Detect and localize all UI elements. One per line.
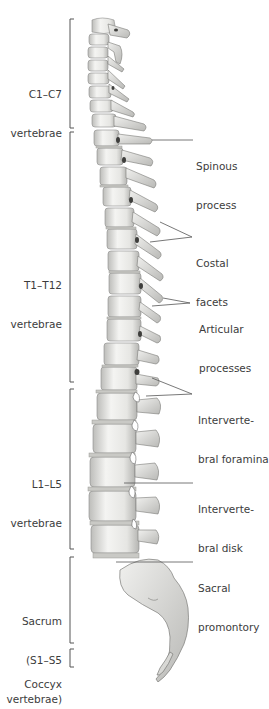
- label-lumbar-line2: vertebrae: [4, 517, 62, 530]
- annotation-sacral-promontory: Sacral promontory: [198, 556, 260, 660]
- annotation-articular-processes-line2: processes: [199, 362, 251, 375]
- label-thoracic-line2: vertebrae: [4, 318, 62, 331]
- label-coccyx: Coccyx: [4, 652, 62, 709]
- annotation-sacral-promontory-line1: Sacral: [198, 582, 260, 595]
- annotation-costal-facets-line1: Costal: [196, 257, 229, 270]
- label-thoracic: T1–T12 vertebrae: [4, 253, 62, 357]
- bracket-cervical: [70, 19, 74, 128]
- annotation-articular-processes: Articular processes: [199, 297, 251, 401]
- label-cervical: C1–C7 vertebrae: [4, 62, 62, 166]
- bracket-sacrum: [70, 557, 74, 643]
- label-lumbar-line1: L1–L5: [4, 478, 62, 491]
- bracket-coccyx: [70, 649, 74, 667]
- bracket-lumbar: [70, 389, 74, 549]
- annotation-intervertebral-foramina-line1: Interverte-: [198, 414, 269, 427]
- sacrum-coccyx: [120, 559, 189, 682]
- region-brackets: [70, 19, 74, 667]
- label-cervical-line2: vertebrae: [4, 127, 62, 140]
- annotation-spinous-process-line2: process: [196, 199, 237, 212]
- annotation-spinous-process-line1: Spinous: [196, 160, 237, 173]
- annotation-intervertebral-disk-line1: Interverte-: [198, 503, 254, 516]
- vertebral-bodies: [88, 18, 141, 553]
- bracket-thoracic: [70, 132, 74, 382]
- annotation-articular-processes-line1: Articular: [199, 323, 251, 336]
- label-lumbar: L1–L5 vertebrae: [4, 452, 62, 556]
- annotation-spinous-process: Spinous process: [196, 134, 237, 238]
- annotation-intervertebral-foramina-line2: bral foramina: [198, 453, 269, 466]
- label-cervical-line1: C1–C7: [4, 88, 62, 101]
- annotation-sacral-promontory-line2: promontory: [198, 621, 260, 634]
- label-sacrum-line1: Sacrum: [4, 615, 62, 628]
- label-coccyx-line1: Coccyx: [4, 678, 62, 691]
- label-thoracic-line1: T1–T12: [4, 279, 62, 292]
- annotation-intervertebral-disk-line2: bral disk: [198, 542, 254, 555]
